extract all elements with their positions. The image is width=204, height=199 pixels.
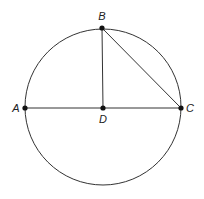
segment-bd	[102, 28, 103, 108]
point-b	[99, 25, 104, 30]
point-d	[100, 105, 105, 110]
geometry-diagram: A B C D	[0, 0, 204, 199]
point-c	[178, 105, 183, 110]
label-c: C	[186, 102, 194, 114]
label-a: A	[11, 102, 19, 114]
label-b: B	[98, 10, 105, 22]
segment-bc	[102, 28, 181, 108]
point-a	[22, 105, 27, 110]
label-d: D	[99, 113, 107, 125]
